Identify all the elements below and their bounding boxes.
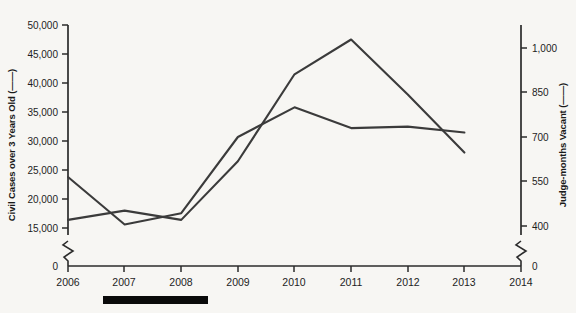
left-tick-label-50000: 50,000 xyxy=(27,20,58,31)
bottom-black-rule xyxy=(103,296,208,304)
left-tick-label-0: 0 xyxy=(52,261,58,272)
x-tick-label-2012: 2012 xyxy=(396,276,420,288)
x-tick-label-2013: 2013 xyxy=(452,276,476,288)
x-tick-label-2010: 2010 xyxy=(282,276,306,288)
left-tick-label-45000: 45,000 xyxy=(27,49,58,60)
chart-figure: 50,000 45,000 40,000 35,000 30,000 25,00… xyxy=(0,0,576,313)
x-tick-label-2006: 2006 xyxy=(56,276,80,288)
x-tick-label-2007: 2007 xyxy=(112,276,136,288)
left-axis-title: Civil Cases over 3 Years Old (——) xyxy=(6,69,17,221)
left-tick-label-40000: 40,000 xyxy=(27,78,58,89)
x-tick-label-2011: 2011 xyxy=(340,276,363,288)
left-tick-label-30000: 30,000 xyxy=(27,136,58,147)
x-tick-label-2009: 2009 xyxy=(226,276,250,288)
left-tick-label-20000: 20,000 xyxy=(27,194,58,205)
x-tick-label-2008: 2008 xyxy=(169,276,193,288)
right-tick-label-400: 400 xyxy=(532,221,549,232)
right-tick-label-850: 850 xyxy=(532,87,549,98)
x-tick-label-2014: 2014 xyxy=(509,276,533,288)
left-tick-label-35000: 35,000 xyxy=(27,107,58,118)
left-tick-label-15000: 15,000 xyxy=(27,223,58,234)
left-tick-label-25000: 25,000 xyxy=(27,165,58,176)
right-tick-label-0: 0 xyxy=(532,261,538,272)
right-tick-label-550: 550 xyxy=(532,176,549,187)
right-tick-label-700: 700 xyxy=(532,132,549,143)
right-tick-label-1000: 1,000 xyxy=(532,43,557,54)
right-axis-title: Judge-months Vacant (——) xyxy=(557,83,568,207)
